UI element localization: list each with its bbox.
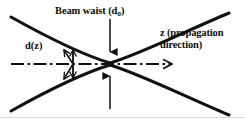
figure-bottom-border: [0, 117, 245, 118]
beam-diameter-leader-upper: [64, 50, 73, 64]
z-axis-label: z (propagation direction): [160, 27, 244, 51]
beam-diagram-svg: [0, 0, 245, 122]
beam-diameter-leader-lower: [64, 64, 73, 79]
z-axis-label-line1: z (propagation: [160, 27, 223, 38]
z-axis-label-line2: direction): [160, 39, 244, 51]
beam-waist-label-close: ): [121, 5, 124, 16]
beam-waist-label-main: Beam waist (d: [55, 5, 117, 16]
beam-waist-figure: Beam waist (do) d(z) z (propagation dire…: [0, 0, 245, 122]
beam-lower-envelope: [11, 65, 229, 115]
beam-diameter-label: d(z): [25, 40, 43, 52]
beam-waist-label: Beam waist (do): [55, 5, 124, 18]
